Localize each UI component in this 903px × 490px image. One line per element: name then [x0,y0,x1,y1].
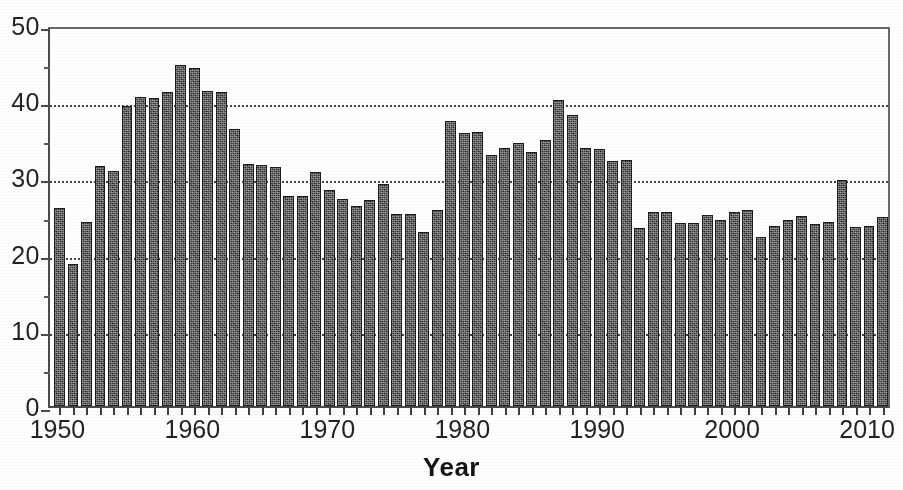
bar-1961 [202,91,213,406]
bar-1967 [283,196,294,406]
bar-1968 [297,196,308,406]
x-tick-label-1980: 1980 [434,414,490,444]
y-tick-0 [41,410,50,412]
bar-1987 [553,100,564,406]
bar-1984 [513,143,524,406]
bar-1951 [68,264,79,406]
bar-2002 [756,237,767,406]
x-tick-label-1950: 1950 [30,414,86,444]
bar-1952 [81,222,92,406]
x-tick-label-2010: 2010 [839,414,895,444]
bar-1983 [499,148,510,406]
x-tick-label-1970: 1970 [300,414,356,444]
y-tick-30 [41,181,50,183]
bar-1959 [175,65,186,406]
bar-1974 [378,184,389,407]
bar-1973 [364,200,375,407]
bar-1954 [108,171,119,406]
x-axis-tick-labels: 1950196019701980199020002010 [48,414,890,448]
bar-1991 [607,161,618,406]
y-minor-tick-15 [44,296,50,298]
bar-2005 [796,216,807,407]
y-tick-40 [41,105,50,107]
y-minor-tick-45 [44,67,50,69]
bar-1950 [54,208,65,406]
bar-1972 [351,206,362,406]
y-tick-label-20: 20 [11,243,40,268]
bar-1957 [149,98,160,406]
y-tick-label-10: 10 [11,319,40,344]
bar-2006 [810,224,821,406]
bar-1990 [594,149,605,406]
bar-1958 [162,92,173,406]
bar-chart-figure: 01020304050 1950196019701980199020002010… [0,0,903,490]
x-tick-label-1990: 1990 [569,414,625,444]
bar-1956 [135,97,146,406]
bar-1986 [540,140,551,406]
bar-1976 [405,214,416,406]
bar-1985 [526,152,537,406]
x-tick-label-1960: 1960 [165,414,221,444]
bar-2000 [729,212,740,406]
bar-2003 [769,226,780,406]
bar-1982 [486,155,497,406]
bar-1960 [189,68,200,406]
y-tick-label-40: 40 [11,90,40,115]
bar-1980 [459,133,470,406]
bar-2010 [864,226,875,406]
bar-2008 [837,180,848,406]
y-minor-tick-25 [44,220,50,222]
bar-2011 [877,217,888,406]
y-tick-20 [41,258,50,260]
bar-2001 [742,210,753,406]
bar-1970 [324,190,335,406]
bar-1992 [621,160,632,406]
bar-1962 [216,92,227,406]
bar-1966 [270,167,281,406]
y-tick-label-50: 50 [11,14,40,39]
bar-1963 [229,129,240,406]
bar-1996 [675,223,686,406]
bar-1953 [95,166,106,406]
bar-2009 [850,227,861,406]
bar-1999 [715,220,726,406]
y-tick-10 [41,334,50,336]
y-minor-tick-5 [44,372,50,374]
bar-1969 [310,172,321,406]
x-axis-title: Year [0,452,903,483]
x-tick-label-2000: 2000 [704,414,760,444]
bar-1994 [648,212,659,406]
bar-1979 [445,121,456,406]
bar-1964 [243,164,254,406]
bar-1971 [337,199,348,406]
bar-1988 [567,115,578,406]
bar-1977 [418,232,429,406]
bar-1975 [391,214,402,406]
y-tick-label-30: 30 [11,166,40,191]
y-tick-50 [41,29,50,31]
bar-1965 [256,165,267,406]
y-axis-tick-labels: 01020304050 [0,27,44,408]
plot-area [48,27,890,408]
y-minor-tick-35 [44,143,50,145]
bar-1993 [634,228,645,406]
bar-1978 [432,210,443,406]
bar-1995 [661,212,672,406]
bar-1997 [688,223,699,406]
bar-2007 [823,222,834,406]
bar-1981 [472,132,483,406]
bar-1955 [122,106,133,406]
bar-1998 [702,215,713,406]
bar-1989 [580,148,591,406]
bar-2004 [783,220,794,406]
